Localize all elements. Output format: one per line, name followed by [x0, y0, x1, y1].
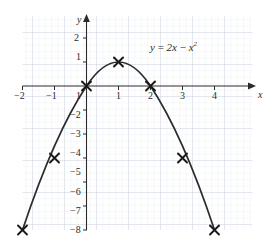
- x-tick-label--2: −2: [14, 91, 25, 101]
- equation-label: y = 2x − x2: [150, 41, 197, 53]
- x-tick-label--1: −1: [46, 91, 57, 101]
- y-tick-label-1: 1: [76, 52, 81, 62]
- y-tick-label--2: −2: [70, 110, 81, 120]
- equation-y: y: [150, 41, 155, 53]
- x-tick-label-2: 2: [148, 91, 153, 101]
- x-tick-label-4: 4: [212, 91, 217, 101]
- grid-major: [23, 16, 253, 230]
- y-tick-label-2: 2: [74, 33, 79, 43]
- y-tick-label--1: 1: [76, 91, 81, 101]
- y-tick-label--6: −6: [70, 187, 81, 197]
- y-tick-label--8: −8: [70, 225, 81, 235]
- y-axis-label: y: [77, 15, 81, 25]
- x-axis-label: x: [258, 90, 262, 100]
- y-tick-label--3: −3: [70, 129, 81, 139]
- y-tick-label--7: −7: [70, 206, 81, 216]
- equation-minus: −: [180, 41, 186, 53]
- x-tick-label-1: 1: [116, 91, 121, 101]
- graph-figure: −2 −1 1 2 3 4 2 1 1 −2 −3 −4 −5 −6 −7 −8…: [0, 0, 271, 249]
- equation-equals: =: [158, 41, 164, 53]
- y-tick-label--4: −4: [70, 148, 81, 158]
- y-tick-label--5: −5: [70, 167, 81, 177]
- equation-quadratic-exponent: 2: [194, 40, 198, 48]
- parabola-plot: [0, 0, 271, 249]
- equation-linear-term: 2x: [167, 41, 177, 53]
- x-tick-label-3: 3: [180, 91, 185, 101]
